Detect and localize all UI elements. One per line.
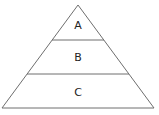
level-label-b: B	[74, 51, 82, 64]
level-label-a: A	[74, 19, 82, 32]
level-label-c: C	[74, 86, 82, 99]
pyramid-diagram: A B C	[0, 0, 159, 115]
